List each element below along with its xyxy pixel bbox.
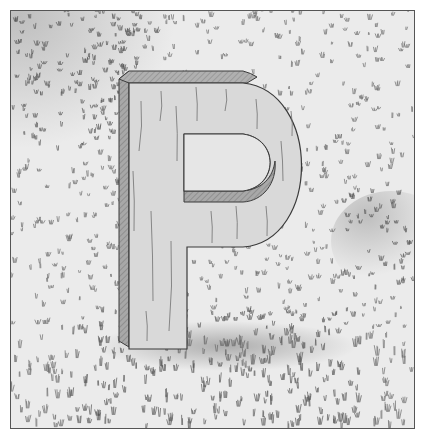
illustration-frame bbox=[10, 10, 415, 429]
letter-side-left-hatch bbox=[119, 71, 129, 347]
letter-top-edge-hatch bbox=[119, 71, 257, 83]
letter-counter-hole bbox=[184, 134, 270, 191]
grass-field-scene bbox=[11, 11, 415, 429]
